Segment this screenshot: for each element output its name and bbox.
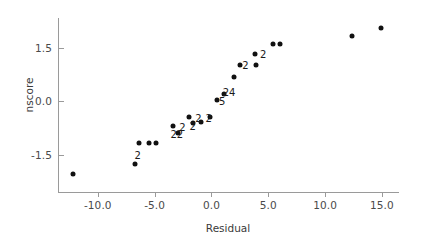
x-tick (98, 192, 99, 197)
data-point (70, 172, 75, 177)
count-label: 2 (195, 113, 201, 124)
plot-area: -10.0-5.00.05.010.015.0 1.50.0-1.5 22222… (0, 0, 423, 250)
count-label: 5 (219, 96, 225, 107)
x-axis-line (58, 192, 399, 193)
data-point (350, 33, 355, 38)
y-axis-line (58, 18, 59, 192)
count-label: 2 (260, 49, 266, 60)
x-tick (211, 192, 212, 197)
y-axis-title: nscore (23, 78, 35, 113)
count-label: 2 (179, 122, 185, 133)
data-point (136, 140, 141, 145)
data-point (270, 41, 275, 46)
x-tick-label: -10.0 (84, 199, 112, 211)
scatter-chart: -10.0-5.00.05.010.015.0 1.50.0-1.5 22222… (0, 0, 423, 250)
data-point (278, 41, 283, 46)
x-tick (155, 192, 156, 197)
data-point (253, 63, 258, 68)
y-tick-label: 1.5 (35, 42, 52, 54)
x-tick-label: 0.0 (203, 199, 220, 211)
data-point (186, 115, 191, 120)
y-tick (59, 101, 64, 102)
data-point (146, 140, 151, 145)
x-tick (325, 192, 326, 197)
x-tick-label: 10.0 (313, 199, 337, 211)
count-label: 2 (134, 150, 140, 161)
x-tick (382, 192, 383, 197)
x-axis-title: Residual (206, 222, 250, 234)
y-tick-label: 0.0 (35, 95, 52, 107)
data-point (133, 161, 138, 166)
data-point (153, 140, 158, 145)
count-label: 2 (205, 113, 211, 124)
y-tick (59, 155, 64, 156)
data-point (231, 75, 236, 80)
y-tick (59, 48, 64, 49)
x-tick-label: 5.0 (260, 199, 277, 211)
data-point (378, 25, 383, 30)
count-label: 24 (223, 86, 236, 97)
data-point (253, 51, 258, 56)
x-tick (268, 192, 269, 197)
x-tick-label: 15.0 (370, 199, 394, 211)
y-tick-label: -1.5 (31, 149, 52, 161)
count-label: 2 (242, 59, 248, 70)
x-tick-label: -5.0 (144, 199, 165, 211)
